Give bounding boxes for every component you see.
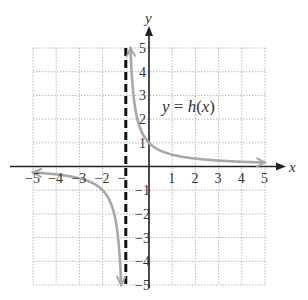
x-tick-label: 3: [215, 171, 222, 186]
x-tick-label: −4: [48, 171, 63, 186]
y-tick-label: −4: [135, 254, 150, 269]
x-tick-label: −5: [25, 171, 40, 186]
function-label: y = h(x): [160, 97, 215, 116]
y-tick-label: −1: [135, 183, 150, 198]
y-tick-label: −2: [135, 207, 150, 222]
y-tick-label: 4: [139, 65, 146, 80]
x-tick-label: −3: [71, 171, 86, 186]
axes: [10, 26, 286, 288]
y-tick-label: −3: [135, 231, 150, 246]
y-tick-label: 1: [139, 136, 146, 151]
y-tick-label: 5: [139, 41, 146, 56]
y-tick-label: −5: [135, 278, 150, 293]
y-axis-label: y: [143, 10, 152, 26]
x-tick-label: 2: [191, 171, 198, 186]
y-tick-label: 3: [139, 88, 146, 103]
y-tick-label: 2: [139, 112, 146, 127]
x-tick-label: −2: [95, 171, 110, 186]
x-tick-label: 5: [261, 171, 268, 186]
x-tick-label: 1: [168, 171, 175, 186]
x-tick-label: −: [118, 171, 126, 186]
function-graph: −5−4−3−2−1234554321−1−2−3−4−5 x y y = h(…: [0, 0, 308, 300]
x-axis-label: x: [288, 159, 296, 175]
x-tick-label: 4: [238, 171, 245, 186]
